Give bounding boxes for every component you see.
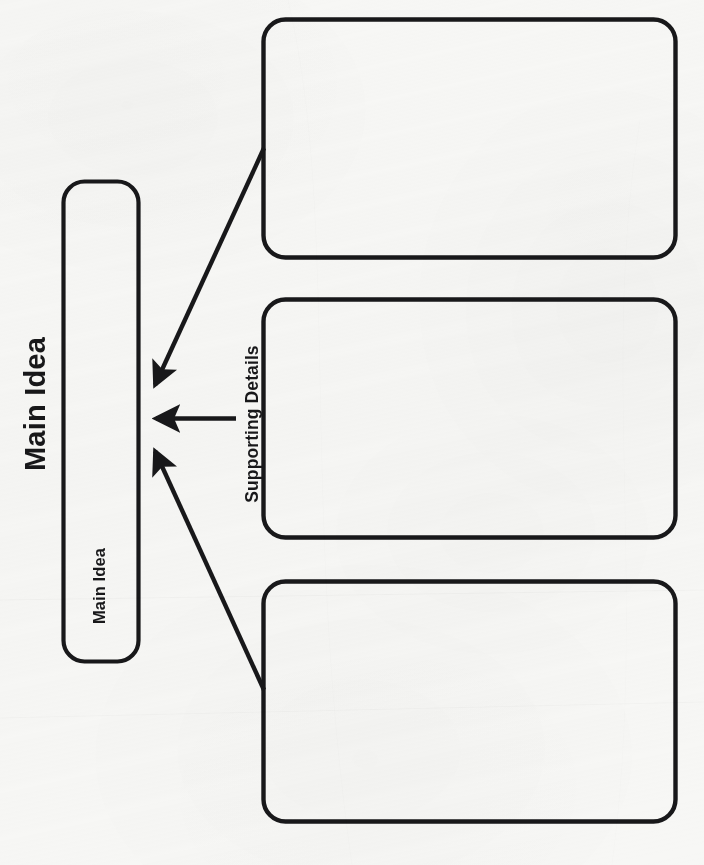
supporting-detail-input-area-3[interactable] — [263, 581, 677, 823]
supporting-detail-input-area-2[interactable] — [263, 299, 677, 539]
main-idea-input-area[interactable] — [63, 181, 140, 663]
supporting-detail-input-area-1[interactable] — [263, 19, 677, 259]
page-title: Main Idea — [21, 309, 55, 499]
worksheet-page: Main Idea Main Idea Supporting Details — [0, 0, 704, 865]
